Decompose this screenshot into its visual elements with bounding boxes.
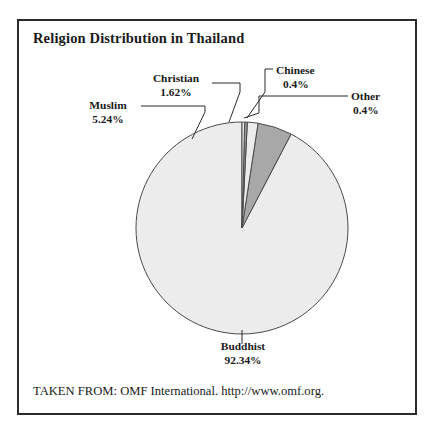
slice-label-chinese: Chinese 0.4%: [276, 64, 338, 92]
slice-label-chinese-value: 0.4%: [276, 78, 338, 92]
slice-label-buddhist-name: Buddhist: [204, 340, 282, 354]
slice-label-other-value: 0.4%: [351, 104, 403, 118]
slice-label-christian-value: 1.62%: [143, 86, 209, 100]
slice-label-christian-name: Christian: [143, 72, 209, 86]
leader-line-chinese: [247, 69, 273, 118]
source-note: TAKEN FROM: OMF International. http://ww…: [33, 384, 324, 399]
leader-line-christian: [212, 83, 240, 122]
slice-label-buddhist-value: 92.34%: [204, 354, 282, 368]
slice-label-other: Other 0.4%: [351, 90, 403, 118]
pie-chart: [0, 0, 434, 437]
slice-label-chinese-name: Chinese: [276, 64, 338, 78]
slice-label-muslim-value: 5.24%: [77, 113, 139, 127]
slice-label-muslim-name: Muslim: [77, 99, 139, 113]
slice-label-christian: Christian 1.62%: [143, 72, 209, 100]
slice-label-buddhist: Buddhist 92.34%: [204, 340, 282, 368]
slice-label-muslim: Muslim 5.24%: [77, 99, 139, 127]
slice-label-other-name: Other: [351, 90, 403, 104]
